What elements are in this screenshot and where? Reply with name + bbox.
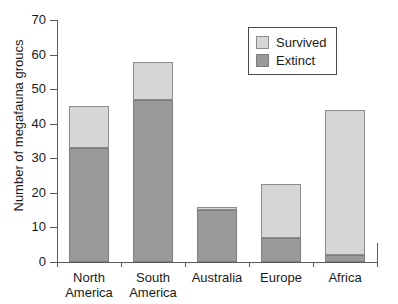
legend-item-extinct: Extinct: [256, 51, 327, 69]
x-tick-2: [185, 262, 186, 267]
y-tick-20: [50, 193, 57, 194]
dark-gray-swatch-icon: [256, 54, 269, 67]
y-tick-label-50: 50: [32, 82, 46, 95]
bar-segment-survived-3: [261, 184, 301, 238]
y-tick-label-30: 30: [32, 151, 46, 164]
plot-right-frame: [377, 243, 378, 263]
y-tick-10: [50, 227, 57, 228]
x-tick-4: [313, 262, 314, 267]
x-label-europe: Europe: [249, 270, 313, 285]
x-label-south-america: SouthAmerica: [121, 270, 185, 300]
bar-segment-extinct-4: [325, 255, 365, 262]
chart-legend: Survived Extinct: [248, 27, 337, 75]
y-tick-label-0: 0: [39, 255, 46, 268]
x-tick-3: [249, 262, 250, 267]
bar-segment-survived-4: [325, 110, 365, 255]
legend-label-survived: Survived: [276, 35, 327, 50]
y-tick-label-60: 60: [32, 48, 46, 61]
light-gray-swatch-icon: [256, 36, 269, 49]
x-tick-0: [57, 262, 58, 267]
y-tick-50: [50, 89, 57, 90]
bar-segment-extinct-3: [261, 238, 301, 262]
y-tick-70: [50, 20, 57, 21]
bar-group-south-america: [133, 20, 173, 262]
y-tick-label-20: 20: [32, 186, 46, 199]
x-tick-end: [377, 262, 378, 267]
bar-group-australia: [197, 20, 237, 262]
x-label-north-america: NorthAmerica: [57, 270, 121, 300]
x-label-africa: Africa: [313, 270, 377, 285]
bar-segment-survived-2: [197, 207, 237, 210]
x-axis-line: [57, 262, 378, 263]
y-tick-60: [50, 55, 57, 56]
legend-label-extinct: Extinct: [276, 53, 315, 68]
bar-segment-extinct-0: [69, 148, 109, 262]
legend-item-survived: Survived: [256, 33, 327, 51]
bar-segment-extinct-1: [133, 100, 173, 262]
bar-segment-survived-0: [69, 106, 109, 147]
y-tick-label-70: 70: [32, 13, 46, 26]
y-tick-label-40: 40: [32, 117, 46, 130]
y-axis-title: Number of megafauna groucs: [11, 16, 26, 236]
bar-segment-survived-1: [133, 62, 173, 100]
y-tick-30: [50, 158, 57, 159]
megafauna-stacked-bar-chart: Number of megafauna groucs 0102030405060…: [0, 0, 398, 304]
y-tick-40: [50, 124, 57, 125]
bar-segment-extinct-2: [197, 210, 237, 262]
y-tick-label-10: 10: [32, 220, 46, 233]
x-tick-1: [121, 262, 122, 267]
x-label-australia: Australia: [185, 270, 249, 285]
y-tick-0: [50, 262, 57, 263]
bar-group-north-america: [69, 20, 109, 262]
